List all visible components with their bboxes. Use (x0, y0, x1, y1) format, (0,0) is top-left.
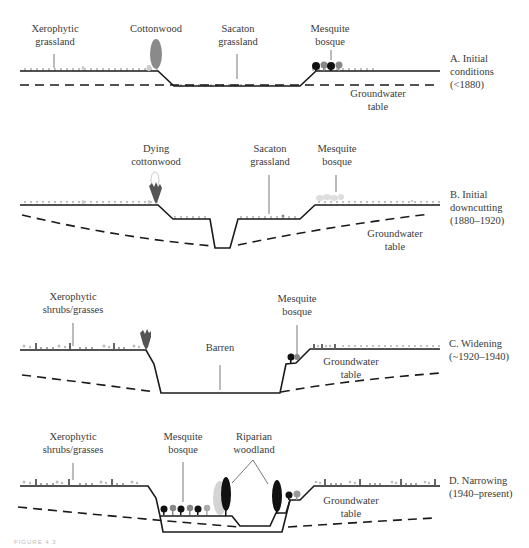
label-line: Sacaton (240, 143, 300, 156)
label-riparian-woodland: Riparian woodland (224, 431, 284, 456)
label-xerophytic-shrubs-grasses: Xerophytic shrubs/grasses (33, 431, 113, 456)
label-line: Groundwater (316, 495, 386, 508)
dying-cottonwood-tree-icon (149, 182, 162, 204)
label-line: Groundwater (316, 356, 386, 369)
label-line: Sacaton (208, 23, 268, 36)
label-line: shrubs/grasses (33, 304, 113, 317)
mesquite-bosque-icon (161, 505, 211, 515)
dying-cottonwood-tree-icon (140, 329, 151, 350)
label-line: Xerophytic (33, 431, 113, 444)
panel-title-line: (~1920–1940) (449, 350, 509, 363)
label-dying-cottonwood: Dying cottonwood (125, 143, 187, 168)
label-line: Cottonwood (126, 23, 186, 36)
shrub-icon (82, 66, 85, 70)
label-line: bosque (300, 36, 360, 49)
label-groundwater-table: Groundwater table (316, 495, 386, 520)
label-line: table (316, 369, 386, 382)
label-line: table (343, 101, 413, 114)
label-line: cottonwood (125, 156, 187, 169)
riparian-tree-icon (213, 477, 231, 516)
leader-line (253, 460, 268, 484)
label-groundwater-table: Groundwater table (360, 228, 430, 253)
label-line: bosque (267, 306, 327, 319)
label-line: Groundwater (360, 228, 430, 241)
label-line: Groundwater (343, 88, 413, 101)
label-line: Mesquite (300, 23, 360, 36)
label-line: table (316, 508, 386, 521)
label-line: grassland (240, 156, 300, 169)
label-line: woodland (224, 444, 284, 457)
panel-title-line: D. Narrowing (449, 474, 513, 487)
label-line: table (360, 241, 430, 254)
label-line: bosque (307, 156, 367, 169)
label-line: Riparian (224, 431, 284, 444)
panel-title-line: C. Widening (449, 337, 509, 350)
label-line: shrubs/grasses (33, 444, 113, 457)
panel-title-b: B. Initial downcutting (1880–1920) (450, 188, 504, 227)
label-sacaton-grassland: Sacaton grassland (208, 23, 268, 48)
label-line: Xerophytic (25, 23, 85, 36)
panel-title-line: (1940–present) (449, 487, 513, 500)
xerophytic-shrubs-icons (23, 343, 141, 349)
label-xerophytic-grassland: Xerophytic grassland (25, 23, 85, 48)
label-groundwater-table: Groundwater table (316, 356, 386, 381)
shrub-icon (282, 215, 285, 218)
label-line: Mesquite (267, 293, 327, 306)
label-line: grassland (25, 36, 85, 49)
panel-title-line: (<1880) (450, 78, 494, 91)
label-xerophytic-shrubs-grasses: Xerophytic shrubs/grasses (33, 291, 113, 316)
label-line: Dying (125, 143, 187, 156)
leader-line (232, 460, 253, 483)
label-cottonwood: Cottonwood (126, 23, 186, 36)
mesquite-bosque-icon (286, 491, 301, 501)
label-line: Mesquite (153, 431, 213, 444)
label-line: Mesquite (307, 143, 367, 156)
label-barren: Barren (195, 342, 245, 355)
panel-title-line: downcutting (450, 201, 504, 214)
riparian-tree-icon (272, 480, 282, 514)
label-line: Barren (195, 342, 245, 355)
shrub-icon (82, 200, 85, 204)
label-sacaton-grassland: Sacaton grassland (240, 143, 300, 168)
label-groundwater-table: Groundwater table (343, 88, 413, 113)
label-mesquite-bosque: Mesquite bosque (153, 431, 213, 456)
figure-caption-fragment: FIGURE 4.3 (14, 539, 57, 545)
xerophytic-shrubs-icons (315, 479, 436, 485)
cottonwood-tree-icon (150, 39, 162, 69)
label-mesquite-bosque: Mesquite bosque (300, 23, 360, 48)
xerophytic-shrubs-icons (23, 479, 139, 485)
label-mesquite-bosque: Mesquite bosque (307, 143, 367, 168)
label-line: bosque (153, 444, 213, 457)
panel-title-c: C. Widening (~1920–1940) (449, 337, 509, 363)
grass-ticks (340, 345, 440, 349)
panel-title-line: conditions (450, 65, 494, 78)
label-line: Xerophytic (33, 291, 113, 304)
panel-title-line: (1880–1920) (450, 214, 504, 227)
panel-title-line: A. Initial (450, 52, 494, 65)
label-mesquite-bosque: Mesquite bosque (267, 293, 327, 318)
dying-mesquite-icon (316, 194, 344, 201)
shrub-icon (148, 200, 151, 204)
shrub-icon (411, 200, 414, 203)
panel-title-d: D. Narrowing (1940–present) (449, 474, 513, 500)
shrub-icon (147, 65, 152, 71)
label-line: grassland (208, 36, 268, 49)
panel-title-a: A. Initial conditions (<1880) (450, 52, 494, 91)
panel-title-line: B. Initial (450, 188, 504, 201)
